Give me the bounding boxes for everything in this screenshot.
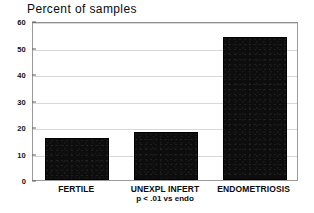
y-tick-mark bbox=[32, 154, 36, 155]
bar bbox=[134, 132, 198, 180]
y-tick-mark bbox=[32, 128, 36, 129]
y-tick-label: 40 bbox=[17, 71, 26, 80]
bar bbox=[45, 138, 109, 180]
x-axis: FERTILEUNEXPL INFERTENDOMETRIOSISp < .01… bbox=[0, 182, 314, 213]
x-tick-label: ENDOMETRIOSIS bbox=[217, 184, 290, 194]
chart-title: Percent of samples bbox=[27, 2, 137, 16]
y-tick-label: 20 bbox=[17, 124, 26, 133]
y-tick-label: 30 bbox=[17, 97, 26, 106]
y-tick-mark bbox=[32, 75, 36, 76]
x-tick-label: FERTILE bbox=[58, 184, 94, 194]
y-tick-mark bbox=[32, 22, 36, 23]
y-tick-label: 60 bbox=[17, 18, 26, 27]
y-tick-label: 50 bbox=[17, 44, 26, 53]
y-tick-label: 10 bbox=[17, 150, 26, 159]
x-tick-label: UNEXPL INFERT bbox=[131, 184, 200, 194]
significance-annotation: p < .01 vs endo bbox=[136, 194, 194, 203]
y-tick-mark bbox=[32, 101, 36, 102]
bar-chart-figure: Percent of samples 0102030405060 FERTILE… bbox=[0, 0, 314, 213]
plot-area bbox=[32, 22, 298, 181]
bar-series bbox=[33, 23, 297, 180]
bar bbox=[223, 37, 287, 180]
y-tick-mark bbox=[32, 48, 36, 49]
